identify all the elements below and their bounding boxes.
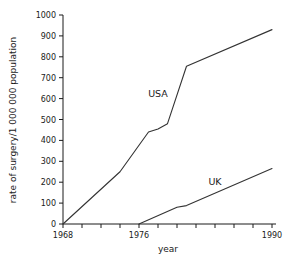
series-label-usa: USA bbox=[148, 88, 168, 99]
x-tick-label: 1968 bbox=[53, 231, 73, 240]
x-tick-label: 1976 bbox=[129, 231, 149, 240]
y-tick-label: 400 bbox=[41, 136, 56, 145]
x-axis-title: year bbox=[158, 244, 178, 254]
y-tick-label: 300 bbox=[41, 157, 56, 166]
x-tick-label: 1990 bbox=[262, 231, 282, 240]
y-tick-label: 100 bbox=[41, 199, 56, 208]
y-axis-title: rate of surgery/1 000 000 population bbox=[8, 37, 18, 203]
y-tick-label: 1000 bbox=[36, 11, 56, 20]
y-tick-label: 600 bbox=[41, 95, 56, 104]
y-tick-label: 800 bbox=[41, 53, 56, 62]
series-label-uk: UK bbox=[208, 176, 222, 187]
y-tick-label: 200 bbox=[41, 178, 56, 187]
chart-container: 01002003004005006007008009001000 rate of… bbox=[0, 0, 288, 258]
y-tick-label: 0 bbox=[51, 220, 56, 229]
line-chart: 01002003004005006007008009001000 rate of… bbox=[0, 0, 288, 258]
y-tick-label: 700 bbox=[41, 74, 56, 83]
y-tick-label: 500 bbox=[41, 116, 56, 125]
y-tick-label: 900 bbox=[41, 32, 56, 41]
